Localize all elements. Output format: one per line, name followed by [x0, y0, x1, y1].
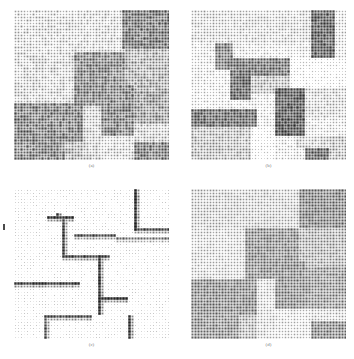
figure-container: (a) (b) (c) (d)	[0, 0, 354, 359]
panel-a-plot	[14, 10, 169, 160]
panel-c-plot	[14, 189, 169, 339]
panel-c-caption: (c)	[14, 342, 169, 348]
panel-c-hinton-canvas	[14, 189, 169, 339]
panel-c-edge-tick	[3, 224, 5, 230]
panel-b-hinton-canvas	[191, 10, 346, 160]
panel-d-hinton-canvas	[191, 189, 346, 339]
panel-a-caption: (a)	[14, 163, 169, 169]
panel-c: (c)	[0, 179, 177, 358]
panel-b-plot	[191, 10, 346, 160]
panel-a-hinton-canvas	[14, 10, 169, 160]
panel-d: (d)	[177, 179, 354, 358]
panel-b: (b)	[177, 0, 354, 179]
panel-d-plot	[191, 189, 346, 339]
panel-d-caption: (d)	[191, 342, 346, 348]
panel-b-caption: (b)	[191, 163, 346, 169]
panel-a: (a)	[0, 0, 177, 179]
panel-grid: (a) (b) (c) (d)	[0, 0, 354, 358]
